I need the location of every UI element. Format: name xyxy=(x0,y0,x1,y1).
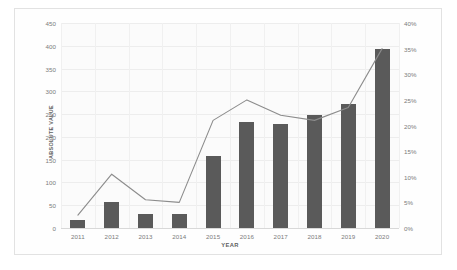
x-axis-tick-label: 2020 xyxy=(375,233,389,240)
vertical-gridline xyxy=(298,23,299,228)
x-axis-title: YEAR xyxy=(61,242,399,248)
bar xyxy=(239,122,254,228)
bar xyxy=(341,104,356,228)
plot-area: 050100150200250300350400450 0%5%10%15%20… xyxy=(61,23,399,228)
vertical-gridline xyxy=(129,23,130,228)
chart-card: ABSOLUTE VALUE % OVER THE TOTAL OF NOTIF… xyxy=(14,8,442,255)
x-axis-tick-label: 2011 xyxy=(71,233,85,240)
x-axis-tick-label: 2019 xyxy=(341,233,355,240)
y-axis-left-tick-label: 150 xyxy=(45,156,56,163)
x-axis-tick-label: 2016 xyxy=(240,233,254,240)
vertical-gridline xyxy=(230,23,231,228)
y-axis-right-tick-label: 15% xyxy=(404,148,417,155)
vertical-gridline xyxy=(196,23,197,228)
y-axis-right-tick-label: 0% xyxy=(404,225,413,232)
bar xyxy=(307,115,322,228)
gridline xyxy=(61,228,399,229)
y-axis-left-tick-label: 200 xyxy=(45,133,56,140)
x-axis-tick-label: 2018 xyxy=(307,233,321,240)
y-axis-left-tick-label: 100 xyxy=(45,179,56,186)
vertical-gridline xyxy=(399,23,400,228)
y-axis-left-tick-label: 450 xyxy=(45,20,56,27)
vertical-gridline xyxy=(331,23,332,228)
vertical-gridline xyxy=(365,23,366,228)
y-axis-left-tick-label: 0 xyxy=(52,225,56,232)
bar xyxy=(172,214,187,228)
y-axis-right-tick-label: 20% xyxy=(404,122,417,129)
bar xyxy=(273,124,288,228)
vertical-gridline xyxy=(61,23,62,228)
y-axis-left-tick-label: 300 xyxy=(45,88,56,95)
bar xyxy=(206,156,221,228)
vertical-gridline xyxy=(264,23,265,228)
bar xyxy=(138,214,153,228)
x-axis-tick-label: 2015 xyxy=(206,233,220,240)
vertical-gridline xyxy=(162,23,163,228)
y-axis-left-tick-label: 350 xyxy=(45,65,56,72)
y-axis-right-tick-label: 5% xyxy=(404,199,413,206)
y-axis-left-tick-label: 400 xyxy=(45,42,56,49)
y-axis-right-tick-label: 10% xyxy=(404,173,417,180)
x-axis-tick-label: 2012 xyxy=(105,233,119,240)
y-axis-right-tick-label: 30% xyxy=(404,71,417,78)
y-axis-right-tick-label: 35% xyxy=(404,45,417,52)
y-axis-right-tick-label: 25% xyxy=(404,96,417,103)
bar xyxy=(104,202,119,228)
y-axis-left-tick-label: 250 xyxy=(45,111,56,118)
y-axis-right-tick-label: 40% xyxy=(404,20,417,27)
y-axis-left-tick-label: 50 xyxy=(49,202,56,209)
x-axis-tick-label: 2013 xyxy=(138,233,152,240)
vertical-gridline xyxy=(95,23,96,228)
bar xyxy=(375,49,390,228)
x-axis-tick-label: 2017 xyxy=(274,233,288,240)
x-axis-tick-label: 2014 xyxy=(172,233,186,240)
bar xyxy=(70,220,85,228)
